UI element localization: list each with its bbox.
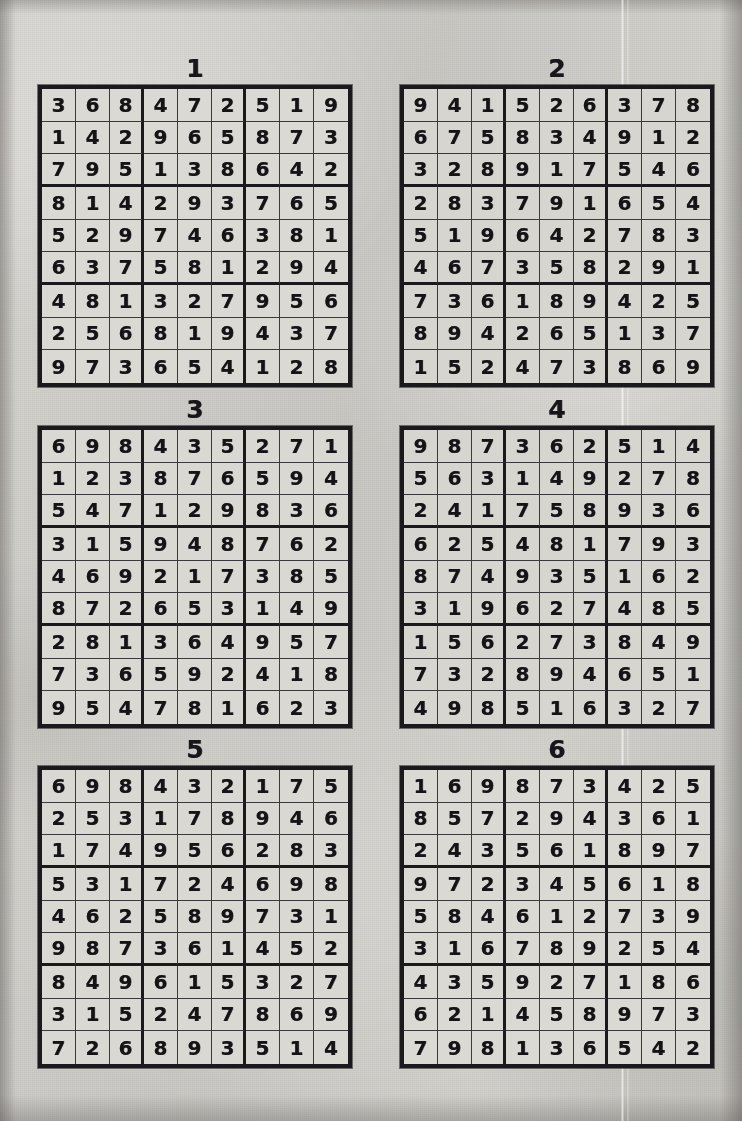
sudoku-cell-r4c1[interactable]: 3 [42, 528, 76, 561]
sudoku-cell-r8c1[interactable]: 8 [404, 318, 438, 351]
sudoku-cell-r1c4[interactable]: 8 [506, 770, 540, 803]
sudoku-cell-r6c5[interactable]: 5 [540, 252, 574, 285]
sudoku-cell-r4c1[interactable]: 8 [42, 187, 76, 220]
sudoku-cell-r6c4[interactable]: 7 [506, 933, 540, 966]
sudoku-cell-r7c7[interactable]: 3 [246, 966, 280, 999]
sudoku-cell-r3c8[interactable]: 3 [280, 495, 314, 528]
sudoku-cell-r1c8[interactable]: 2 [642, 770, 676, 803]
sudoku-cell-r5c2[interactable]: 8 [438, 901, 472, 934]
sudoku-cell-r4c3[interactable]: 5 [110, 528, 144, 561]
sudoku-cell-r1c3[interactable]: 7 [472, 430, 506, 463]
sudoku-cell-r1c5[interactable]: 2 [540, 89, 574, 122]
sudoku-cell-r1c1[interactable]: 3 [42, 89, 76, 122]
sudoku-cell-r5c2[interactable]: 2 [76, 220, 110, 253]
sudoku-cell-r4c4[interactable]: 7 [144, 868, 178, 901]
sudoku-cell-r7c6[interactable]: 7 [574, 966, 608, 999]
sudoku-cell-r8c8[interactable]: 3 [280, 318, 314, 351]
sudoku-cell-r2c9[interactable]: 4 [314, 463, 348, 496]
sudoku-cell-r6c1[interactable]: 3 [404, 593, 438, 626]
sudoku-cell-r6c4[interactable]: 3 [506, 252, 540, 285]
sudoku-cell-r3c5[interactable]: 5 [540, 495, 574, 528]
sudoku-cell-r5c7[interactable]: 1 [608, 561, 642, 594]
sudoku-cell-r4c3[interactable]: 1 [110, 868, 144, 901]
sudoku-cell-r5c4[interactable]: 2 [144, 561, 178, 594]
sudoku-cell-r7c2[interactable]: 5 [438, 626, 472, 659]
sudoku-cell-r7c1[interactable]: 7 [404, 285, 438, 318]
sudoku-cell-r4c7[interactable]: 7 [246, 528, 280, 561]
sudoku-cell-r8c4[interactable]: 2 [144, 999, 178, 1032]
sudoku-cell-r9c9[interactable]: 4 [314, 1031, 348, 1064]
sudoku-cell-r9c8[interactable]: 2 [280, 350, 314, 383]
sudoku-cell-r4c8[interactable]: 9 [642, 528, 676, 561]
sudoku-cell-r4c2[interactable]: 1 [76, 528, 110, 561]
sudoku-cell-r9c4[interactable]: 5 [506, 691, 540, 724]
sudoku-cell-r3c8[interactable]: 4 [280, 154, 314, 187]
sudoku-cell-r2c3[interactable]: 7 [472, 803, 506, 836]
sudoku-cell-r9c9[interactable]: 9 [676, 350, 710, 383]
sudoku-cell-r8c4[interactable]: 8 [144, 318, 178, 351]
sudoku-cell-r7c1[interactable]: 2 [42, 626, 76, 659]
sudoku-cell-r8c9[interactable]: 1 [676, 659, 710, 692]
sudoku-cell-r4c4[interactable]: 3 [506, 868, 540, 901]
sudoku-cell-r2c4[interactable]: 1 [144, 803, 178, 836]
sudoku-cell-r5c8[interactable]: 8 [642, 220, 676, 253]
sudoku-cell-r2c5[interactable]: 7 [178, 463, 212, 496]
sudoku-cell-r1c8[interactable]: 1 [642, 430, 676, 463]
sudoku-cell-r3c4[interactable]: 1 [144, 495, 178, 528]
sudoku-cell-r1c5[interactable]: 7 [540, 770, 574, 803]
sudoku-cell-r8c4[interactable]: 2 [506, 318, 540, 351]
sudoku-cell-r9c2[interactable]: 2 [76, 1031, 110, 1064]
sudoku-cell-r7c7[interactable]: 1 [608, 966, 642, 999]
sudoku-cell-r4c5[interactable]: 4 [178, 528, 212, 561]
sudoku-cell-r4c5[interactable]: 2 [178, 868, 212, 901]
sudoku-cell-r5c5[interactable]: 1 [178, 561, 212, 594]
sudoku-cell-r3c3[interactable]: 8 [472, 154, 506, 187]
sudoku-cell-r6c6[interactable]: 1 [212, 933, 246, 966]
sudoku-cell-r3c2[interactable]: 9 [76, 154, 110, 187]
sudoku-cell-r3c5[interactable]: 1 [540, 154, 574, 187]
sudoku-cell-r4c2[interactable]: 3 [76, 868, 110, 901]
sudoku-cell-r4c7[interactable]: 6 [608, 187, 642, 220]
sudoku-cell-r6c2[interactable]: 7 [76, 593, 110, 626]
sudoku-cell-r2c7[interactable]: 9 [246, 803, 280, 836]
sudoku-cell-r6c9[interactable]: 4 [676, 933, 710, 966]
sudoku-cell-r9c9[interactable]: 2 [676, 1031, 710, 1064]
sudoku-cell-r3c2[interactable]: 4 [438, 495, 472, 528]
sudoku-cell-r5c9[interactable]: 1 [314, 901, 348, 934]
sudoku-cell-r7c9[interactable]: 7 [314, 626, 348, 659]
sudoku-cell-r5c6[interactable]: 5 [574, 561, 608, 594]
sudoku-cell-r4c6[interactable]: 5 [574, 868, 608, 901]
sudoku-cell-r9c1[interactable]: 7 [42, 1031, 76, 1064]
sudoku-cell-r4c1[interactable]: 6 [404, 528, 438, 561]
sudoku-cell-r3c8[interactable]: 9 [642, 835, 676, 868]
sudoku-cell-r3c5[interactable]: 3 [178, 154, 212, 187]
sudoku-cell-r3c4[interactable]: 7 [506, 495, 540, 528]
sudoku-cell-r6c5[interactable]: 5 [178, 593, 212, 626]
sudoku-cell-r7c8[interactable]: 8 [642, 966, 676, 999]
sudoku-cell-r9c5[interactable]: 7 [540, 350, 574, 383]
sudoku-cell-r3c9[interactable]: 6 [314, 495, 348, 528]
sudoku-cell-r3c3[interactable]: 5 [110, 154, 144, 187]
sudoku-cell-r8c1[interactable]: 7 [404, 659, 438, 692]
sudoku-cell-r6c5[interactable]: 8 [540, 933, 574, 966]
sudoku-cell-r7c2[interactable]: 4 [76, 966, 110, 999]
sudoku-cell-r8c2[interactable]: 1 [76, 999, 110, 1032]
sudoku-cell-r1c2[interactable]: 6 [438, 770, 472, 803]
sudoku-cell-r1c2[interactable]: 8 [438, 430, 472, 463]
sudoku-cell-r9c6[interactable]: 1 [212, 691, 246, 724]
sudoku-cell-r8c3[interactable]: 1 [472, 999, 506, 1032]
sudoku-cell-r1c5[interactable]: 7 [178, 89, 212, 122]
sudoku-cell-r8c5[interactable]: 1 [178, 318, 212, 351]
sudoku-cell-r1c3[interactable]: 8 [110, 770, 144, 803]
sudoku-cell-r3c8[interactable]: 4 [642, 154, 676, 187]
sudoku-cell-r8c9[interactable]: 3 [676, 999, 710, 1032]
sudoku-cell-r8c4[interactable]: 8 [506, 659, 540, 692]
sudoku-cell-r9c4[interactable]: 1 [506, 1031, 540, 1064]
sudoku-cell-r6c2[interactable]: 6 [438, 252, 472, 285]
sudoku-cell-r5c5[interactable]: 4 [540, 220, 574, 253]
sudoku-cell-r1c6[interactable]: 5 [212, 430, 246, 463]
sudoku-cell-r8c5[interactable]: 5 [540, 999, 574, 1032]
sudoku-cell-r2c7[interactable]: 3 [608, 803, 642, 836]
sudoku-cell-r3c6[interactable]: 6 [212, 835, 246, 868]
sudoku-cell-r2c7[interactable]: 9 [608, 122, 642, 155]
